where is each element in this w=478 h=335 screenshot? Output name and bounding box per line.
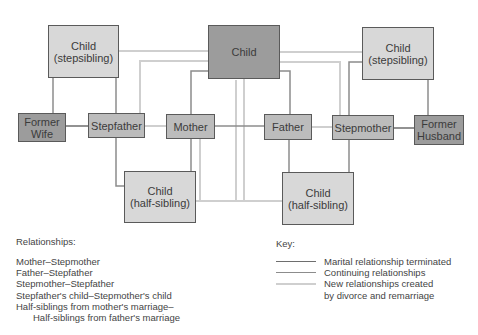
relationship-item: Half-siblings from mother's marriage– <box>16 301 180 312</box>
relationships-title: Relationships: <box>16 236 76 247</box>
relationship-item: Mother–Stepmother <box>16 256 180 267</box>
node-label-line1: Child <box>147 185 172 197</box>
node-label-line2: (half-sibling) <box>288 199 348 211</box>
continuing-line-swatch <box>276 272 316 273</box>
key-list: Marital relationship terminated Continui… <box>276 256 451 301</box>
key-label: Marital relationship terminated <box>324 256 451 267</box>
child-half-sibling-left-node: Child (half-sibling) <box>124 171 196 223</box>
former-wife-node: Former Wife <box>18 113 66 142</box>
key-label: Continuing relationships <box>324 267 425 278</box>
mother-node: Mother <box>166 114 215 139</box>
node-label-line2: (stepsibling) <box>54 52 113 64</box>
key-title: Key: <box>276 238 295 249</box>
node-label: Stepmother <box>335 122 392 134</box>
key-label-continuation: by divorce and remarriage <box>324 290 434 301</box>
stepfather-node: Stepfather <box>88 113 145 138</box>
key-item-continuing: Continuing relationships <box>276 267 451 278</box>
relationship-item-continuation: Half-siblings from father's marriage <box>16 312 180 323</box>
child-stepsibling-right-node: Child (stepsibling) <box>362 27 434 80</box>
relationship-item: Stepmother–Stepfather <box>16 278 180 289</box>
key-label: New relationships created <box>324 278 433 289</box>
relationship-item: Father–Stepfather <box>16 267 180 278</box>
key-item-new-continuation: by divorce and remarriage <box>276 290 451 301</box>
child-stepsibling-left-node: Child (stepsibling) <box>48 25 119 78</box>
node-label-line2: (half-sibling) <box>130 197 190 209</box>
stepmother-node: Stepmother <box>332 115 394 140</box>
node-label-line1: Former <box>24 116 59 128</box>
child-center-node: Child <box>208 25 280 79</box>
child-half-sibling-right-node: Child (half-sibling) <box>282 172 354 225</box>
terminated-line-swatch <box>276 261 316 262</box>
key-item-terminated: Marital relationship terminated <box>276 256 451 267</box>
node-label-line1: Child <box>71 40 96 52</box>
node-label-line2: Husband <box>417 130 461 142</box>
node-label-line2: (stepsibling) <box>368 54 427 66</box>
node-label: Mother <box>173 121 207 133</box>
relationship-item: Stepfather's child–Stepmother's child <box>16 290 180 301</box>
node-label-line1: Child <box>385 42 410 54</box>
node-label: Stepfather <box>91 120 142 132</box>
key-item-new: New relationships created <box>276 278 451 289</box>
node-label-line1: Former <box>421 118 456 130</box>
father-node: Father <box>264 114 312 140</box>
node-label: Father <box>272 121 304 133</box>
node-label-line1: Child <box>305 187 330 199</box>
former-husband-node: Former Husband <box>414 115 464 145</box>
node-label: Child <box>231 46 256 58</box>
node-label-line2: Wife <box>31 128 53 140</box>
relationships-list: Mother–Stepmother Father–Stepfather Step… <box>16 256 180 323</box>
new-line-swatch <box>276 283 316 285</box>
